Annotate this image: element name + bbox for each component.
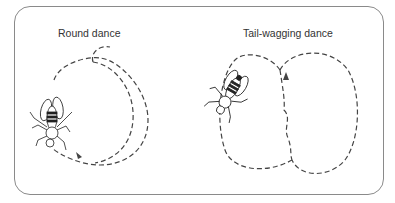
dance-paths [0,0,395,203]
waggle-right-lobe-path [280,53,357,173]
bee-icon-round-dance [30,96,72,150]
round-dance-inner-path [93,62,133,163]
bee-icon-tail-wagging [200,64,257,125]
round-dance-arrow-icon [76,152,82,159]
waggle-arrow-icon [283,72,289,80]
round-dance-turn-path [92,47,110,62]
round-dance-outer-path [52,58,148,165]
waggle-run-path [280,70,292,160]
